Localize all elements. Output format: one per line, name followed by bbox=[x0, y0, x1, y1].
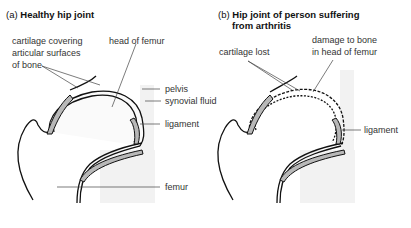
label-cartilage-covering: cartilage covering bbox=[12, 36, 83, 46]
panel-a-prefix: (a) bbox=[6, 9, 18, 20]
label-head-of-femur: head of femur bbox=[109, 36, 165, 46]
panel-b-title-2: from arthritis bbox=[232, 21, 291, 31]
panel-a-title-text: Healthy hip joint bbox=[20, 9, 94, 20]
label-synovial-fluid: synovial fluid bbox=[165, 96, 217, 106]
label-damage-to-bone: damage to bone bbox=[312, 35, 377, 45]
label-femur: femur bbox=[165, 182, 188, 192]
label-ligament-b: ligament bbox=[364, 125, 398, 135]
panel-b-prefix: (b) bbox=[218, 9, 230, 20]
label-in-head-of-femur: in head of femur bbox=[312, 47, 377, 57]
label-articular-surfaces: articular surfaces bbox=[12, 48, 81, 58]
label-cartilage-lost: cartilage lost bbox=[219, 47, 270, 57]
panel-a-title: (a) Healthy hip joint bbox=[6, 10, 94, 20]
panel-b-title-line2: from arthritis bbox=[232, 20, 291, 31]
label-of-bone: of bone bbox=[12, 60, 42, 70]
panel-b-title: (b) Hip joint of person suffering bbox=[218, 10, 359, 20]
label-pelvis: pelvis bbox=[165, 84, 188, 94]
label-ligament-a: ligament bbox=[165, 119, 199, 129]
panel-b-title-line1: Hip joint of person suffering bbox=[232, 9, 359, 20]
